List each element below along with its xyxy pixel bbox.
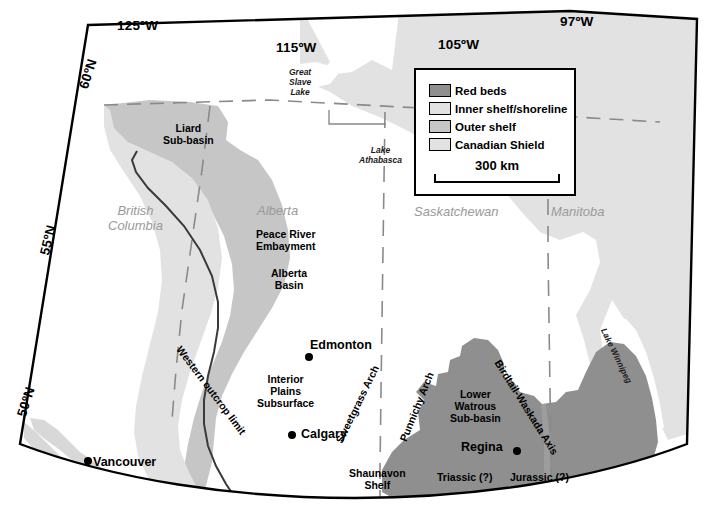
legend-swatch-red-beds (429, 84, 451, 97)
city-dot-regina (513, 447, 521, 455)
city-label-calgary: Calgary (301, 427, 347, 441)
lake-label-line2: Athabasca (359, 156, 402, 166)
graticule-label-97w: 97ºW (560, 14, 594, 29)
legend-label-red-beds: Red beds (455, 85, 507, 97)
period-label-triassic: Triassic (?) (437, 472, 492, 484)
feature-label-line1: Liard (163, 123, 214, 135)
city-dot-calgary (288, 431, 296, 439)
legend-item-canadian-shield: Canadian Shield (429, 136, 567, 153)
feature-label-line1: Shaunavon (349, 468, 406, 480)
legend-item-red-beds: Red beds (429, 82, 567, 99)
province-label-british-columbia: British Columbia (108, 204, 163, 233)
legend-item-inner-shelf: Inner shelf/shoreline (429, 100, 567, 117)
feature-label-alberta-basin: Alberta Basin (271, 268, 307, 292)
graticule-label-125w: 125ºW (117, 18, 158, 33)
boundary-ab-sk (380, 112, 385, 500)
lake-label-lake-athabasca: Lake Athabasca (359, 146, 402, 166)
feature-label-line2: Plains (257, 386, 314, 398)
feature-label-line2: Embayment (256, 241, 316, 253)
lake-label-great-slave-lake: Great Slave Lake (289, 68, 311, 97)
feature-label-liard-sub-basin: Liard Sub-basin (163, 123, 214, 147)
legend-label-outer-shelf: Outer shelf (455, 121, 516, 133)
legend-label-canadian-shield: Canadian Shield (455, 139, 544, 151)
feature-label-peace-river-embayment: Peace River Embayment (256, 229, 316, 253)
legend-label-inner-shelf: Inner shelf/shoreline (455, 103, 567, 115)
feature-label-line1: Interior (257, 374, 314, 386)
feature-label-lower-watrous-sub-basin: Lower Watrous Sub-basin (450, 389, 501, 424)
feature-label-line1: Lower (450, 389, 501, 401)
province-label-line1: British (108, 204, 163, 219)
city-dot-vancouver (84, 457, 92, 465)
graticule-label-105w: 105ºW (438, 37, 479, 52)
province-label-alberta: Alberta (257, 204, 298, 219)
feature-label-line1: Peace River (256, 229, 316, 241)
scale-bar-line (434, 181, 560, 183)
legend-swatch-canadian-shield (429, 138, 451, 151)
feature-label-line3: Sub-basin (450, 413, 501, 425)
legend-item-list: Red beds Inner shelf/shoreline Outer she… (429, 82, 567, 154)
feature-label-line2: Watrous (450, 401, 501, 413)
province-label-saskatchewan: Saskatchewan (414, 205, 499, 220)
feature-label-interior-plains-subsurface: Interior Plains Subsurface (257, 374, 314, 409)
feature-label-line2: Sub-basin (163, 135, 214, 147)
map-canvas (0, 0, 713, 532)
city-label-edmonton: Edmonton (310, 338, 372, 352)
paleogeography-map: 125ºW 115ºW 105ºW 97ºW 60ºN 55ºN 50ºN Br… (0, 0, 713, 532)
scale-bar-graphic (434, 174, 560, 183)
feature-label-line2: Basin (271, 280, 307, 292)
scale-bar-tick-right (558, 174, 560, 183)
map-legend: Red beds Inner shelf/shoreline Outer she… (414, 68, 576, 196)
province-label-line2: Columbia (108, 219, 163, 234)
feature-label-line2: Shelf (349, 480, 406, 492)
geology-layer (0, 0, 700, 514)
legend-swatch-inner-shelf (429, 102, 451, 115)
lake-label-line3: Lake (289, 88, 311, 98)
feature-label-line3: Subsurface (257, 398, 314, 410)
scale-bar: 300 km (434, 158, 560, 183)
city-dot-edmonton (305, 353, 313, 361)
feature-label-line1: Alberta (271, 268, 307, 280)
city-label-regina: Regina (461, 440, 503, 454)
scale-bar-label: 300 km (434, 158, 560, 173)
city-label-vancouver: Vancouver (93, 455, 156, 469)
legend-swatch-outer-shelf (429, 120, 451, 133)
province-label-manitoba: Manitoba (551, 205, 604, 220)
legend-item-outer-shelf: Outer shelf (429, 118, 567, 135)
period-label-jurassic: Jurassic (?) (510, 472, 569, 484)
feature-label-shaunavon-shelf: Shaunavon Shelf (349, 468, 406, 492)
graticule-label-115w: 115ºW (276, 40, 316, 55)
